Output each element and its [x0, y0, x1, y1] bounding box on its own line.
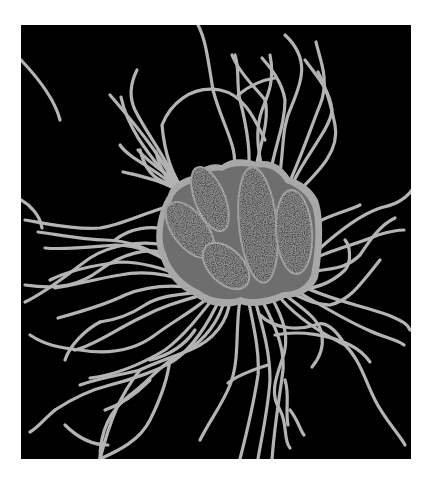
- cell-cluster: [156, 159, 322, 306]
- bacteria-micrograph: [0, 0, 424, 480]
